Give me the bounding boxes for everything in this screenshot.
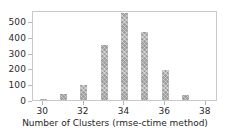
x-axis-tick-label: 34 xyxy=(118,106,129,116)
bar xyxy=(80,85,87,100)
bar xyxy=(162,70,169,100)
y-axis-tick-label: 100 xyxy=(9,80,26,90)
x-axis-tick-label: 36 xyxy=(158,106,169,116)
x-axis-tick-label: 38 xyxy=(199,106,210,116)
x-axis-label: Number of Clusters (rmse-ctime method) xyxy=(0,118,230,128)
bar xyxy=(141,32,148,100)
bar xyxy=(40,99,47,100)
bar xyxy=(60,94,67,100)
bar xyxy=(182,95,189,100)
x-axis-tick-mark xyxy=(205,101,206,105)
bar xyxy=(101,45,108,100)
y-axis-tick-label: 400 xyxy=(9,33,26,43)
x-axis-tick-label: 32 xyxy=(77,106,88,116)
x-axis-tick-mark xyxy=(42,101,43,105)
y-axis-tick-label: 200 xyxy=(9,64,26,74)
y-axis-tick-label: 0 xyxy=(20,96,26,106)
x-axis-tick-mark xyxy=(83,101,84,105)
bar xyxy=(121,13,128,100)
x-axis-tick-label: 30 xyxy=(36,106,47,116)
x-axis-tick-mark xyxy=(123,101,124,105)
x-axis-tick-mark xyxy=(164,101,165,105)
y-axis-tick-mark xyxy=(28,101,32,102)
y-axis-tick-label: 300 xyxy=(9,49,26,59)
histogram-figure: 0100200300400500 3032343638 Number of Cl… xyxy=(0,0,230,134)
plot-area xyxy=(32,11,217,101)
y-axis-tick-label: 500 xyxy=(9,17,26,27)
